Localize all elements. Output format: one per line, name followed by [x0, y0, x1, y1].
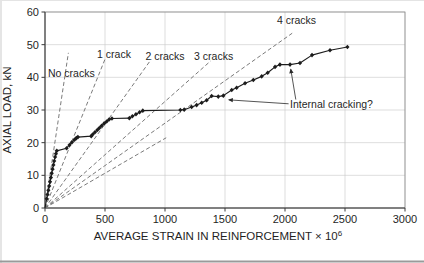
data-point-marker: [345, 45, 349, 50]
crack-line: [45, 59, 151, 208]
y-tick-label: 40: [27, 71, 39, 83]
data-point-marker: [53, 155, 57, 160]
internal-cracking-annotation: Internal cracking?: [229, 69, 373, 110]
crack-line: [45, 61, 211, 208]
data-point-marker: [178, 108, 182, 113]
data-point-marker: [243, 81, 247, 86]
data-point-marker: [46, 188, 50, 193]
x-axis-label-exponent: 6: [338, 229, 343, 238]
crack-line-label: 2 cracks: [145, 50, 184, 62]
data-point-marker: [251, 78, 255, 83]
data-point-marker: [51, 163, 55, 168]
crack-line: [45, 58, 106, 208]
figure-container: No cracks1 crack2 cracks3 cracks4 cracks…: [0, 0, 424, 263]
x-tick-label: 2000: [273, 213, 297, 225]
y-axis-label: AXIAL LOAD, kN: [1, 66, 13, 153]
y-tick-label: 50: [27, 39, 39, 51]
crack-line-label: 4 cracks: [277, 14, 316, 26]
data-point-marker: [134, 112, 138, 117]
y-tick-label: 10: [27, 169, 39, 181]
x-tick-label: 0: [42, 213, 48, 225]
data-point-marker: [260, 74, 264, 79]
data-point-marker: [288, 62, 292, 67]
data-point-marker: [48, 180, 52, 185]
x-axis-label-base: AVERAGE STRAIN IN REINFORCEMENT × 10: [94, 230, 338, 242]
data-point-marker: [45, 192, 49, 197]
annotation-text: Internal cracking?: [290, 98, 373, 110]
data-point-marker: [328, 48, 332, 53]
x-tick-label: 1500: [213, 213, 237, 225]
crack-line: [45, 138, 166, 208]
x-tick-label: 1000: [153, 213, 177, 225]
data-point-marker: [235, 85, 239, 90]
data-point-marker: [195, 103, 199, 108]
axis-ticks-and-labels: 0500100015002000250030000102030405060: [27, 6, 417, 225]
x-tick-label: 500: [96, 213, 114, 225]
crack-line-label: 1 crack: [97, 48, 132, 60]
crack-line-label: No cracks: [48, 67, 95, 79]
x-tick-label: 3000: [393, 213, 417, 225]
x-tick-label: 2500: [333, 213, 357, 225]
axial-load-vs-strain-chart: No cracks1 crack2 cracks3 cracks4 cracks…: [0, 0, 424, 263]
y-tick-label: 20: [27, 137, 39, 149]
crack-line-label: 3 cracks: [194, 50, 233, 62]
y-tick-label: 0: [33, 202, 39, 214]
annotation-arrow: [291, 69, 296, 99]
data-point-marker: [278, 62, 282, 67]
y-tick-label: 60: [27, 6, 39, 18]
data-point-marker: [200, 101, 204, 106]
data-point-marker: [216, 94, 220, 99]
y-tick-label: 30: [27, 104, 39, 116]
x-axis-label: AVERAGE STRAIN IN REINFORCEMENT × 106: [94, 229, 343, 242]
annotation-arrow: [229, 100, 289, 104]
